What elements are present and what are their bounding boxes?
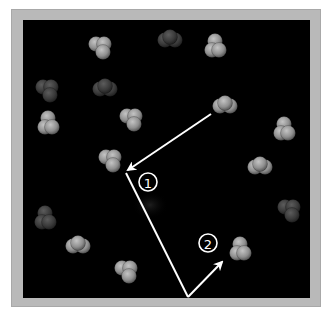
molecules-group: [35, 30, 301, 284]
molecule: [89, 37, 112, 60]
path-arrow-out: [188, 262, 222, 297]
molecule: [274, 117, 296, 141]
molecule: [230, 237, 252, 261]
label-2-text: 2: [204, 237, 212, 252]
molecule: [36, 80, 59, 103]
molecule: [248, 157, 273, 175]
label-1-text: 1: [144, 176, 152, 191]
molecule: [35, 206, 57, 230]
molecule: [158, 30, 183, 48]
molecule: [205, 34, 227, 58]
molecule: [66, 236, 91, 254]
molecule: [93, 79, 118, 97]
molecule: [120, 109, 143, 132]
molecule: [99, 150, 122, 173]
molecule: [38, 111, 60, 135]
label-2: 2: [199, 234, 217, 252]
diagram-overlay: 1 2: [0, 0, 327, 316]
molecule: [278, 200, 301, 223]
label-1: 1: [139, 173, 157, 191]
molecule: [115, 261, 138, 284]
molecule: [213, 96, 238, 114]
